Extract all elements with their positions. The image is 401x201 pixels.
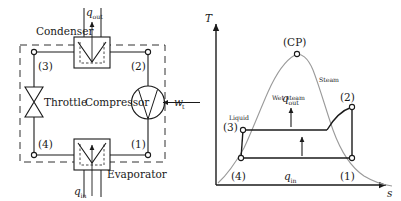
ts-heat-out-subscript: out	[289, 99, 300, 106]
ts-state-point-2-marker	[349, 104, 354, 109]
schematic-heat-in-label: q in	[74, 185, 86, 199]
ts-state-label-3: (3)	[223, 121, 238, 133]
schematic-work-label: w t	[174, 96, 185, 110]
ts-state-label-2: (2)	[340, 91, 355, 103]
figure-root: (3) (2) (4) (1) Condenser Evaporator Thr…	[0, 0, 401, 201]
schematic-node-3-marker	[31, 49, 36, 54]
schematic-node-2-marker	[145, 49, 150, 54]
process-3-to-4-throttling	[241, 130, 243, 158]
ts-heat-in-label: q in	[284, 170, 296, 184]
evaporator-label: Evaporator	[107, 168, 168, 180]
ts-state-point-4-marker	[238, 155, 243, 160]
condenser-label: Condenser	[36, 25, 94, 37]
ts-state-label-4: (4)	[231, 170, 246, 182]
schematic-node-4-marker	[31, 152, 36, 157]
schematic-work-subscript: t	[182, 103, 185, 110]
schematic-node-label-1: (1)	[131, 138, 146, 150]
ts-heat-in-subscript: in	[291, 177, 297, 184]
entropy-axis-label: s	[387, 187, 393, 199]
ts-diagram-panel: T s (1) (2) (	[205, 12, 393, 199]
critical-point-marker	[294, 51, 299, 56]
schematic-node-label-3: (3)	[38, 60, 53, 72]
thermodynamics-figure-svg: (3) (2) (4) (1) Condenser Evaporator Thr…	[0, 0, 401, 201]
ts-state-point-3-marker	[240, 127, 245, 132]
ts-state-point-1-marker	[349, 155, 354, 160]
critical-point-label: (CP)	[283, 36, 306, 48]
schematic-node-1-marker	[145, 152, 150, 157]
region-label-steam: Steam	[319, 76, 339, 83]
throttle-component	[25, 87, 43, 117]
cycle-schematic-panel: (3) (2) (4) (1) Condenser Evaporator Thr…	[20, 6, 200, 199]
throttle-bowtie-symbol	[25, 87, 43, 117]
compressor-label: Compressor	[85, 96, 150, 108]
schematic-node-label-4: (4)	[38, 138, 53, 150]
ts-state-label-1: (1)	[340, 170, 355, 182]
temperature-axis-label: T	[205, 12, 213, 24]
region-label-liquid: Liquid	[229, 114, 249, 122]
schematic-heat-in-subscript: in	[81, 192, 87, 199]
throttle-label: Throttle	[44, 96, 87, 108]
schematic-node-label-2: (2)	[131, 60, 146, 72]
process-2-to-2p-desuperheat	[327, 107, 352, 130]
schematic-heat-out-subscript: out	[93, 13, 104, 20]
